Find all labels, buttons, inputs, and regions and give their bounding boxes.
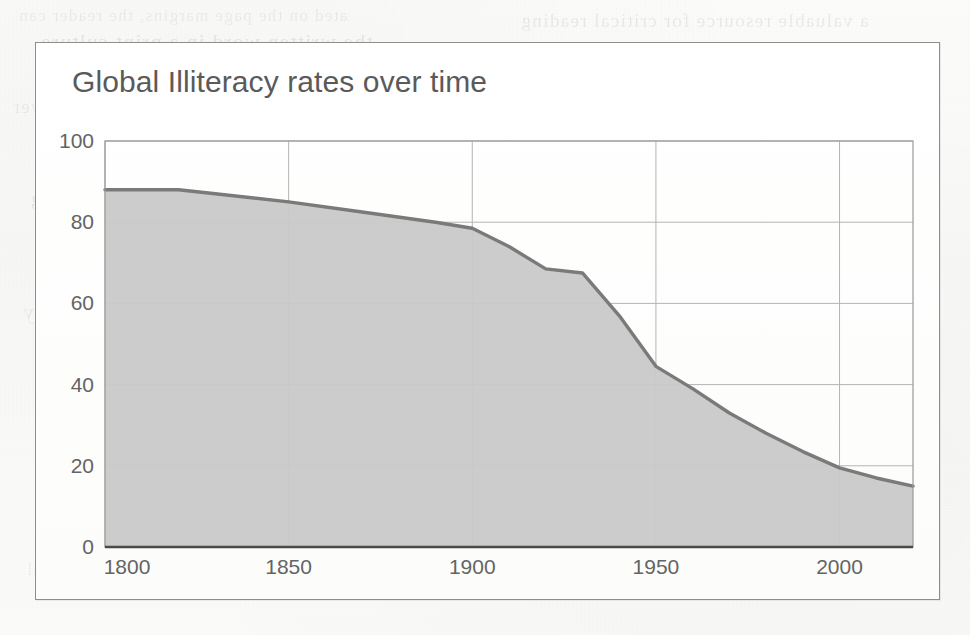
y-axis-tick-labels: 020406080100 [59, 129, 94, 558]
x-axis-tick-label: 1800 [104, 555, 151, 578]
y-axis-tick-label: 40 [71, 373, 94, 396]
plot-area-wrapper: 020406080100 18001850190019502000 [36, 43, 941, 601]
ghost-text-line: ated on the page margins, the reader can [18, 6, 347, 26]
x-axis-tick-label: 1900 [449, 555, 496, 578]
series-area-fill [105, 190, 913, 547]
area-fill-polygon [105, 190, 913, 547]
ghost-text-line: a valuable resource for critical reading [520, 10, 869, 32]
x-axis-tick-labels: 18001850190019502000 [104, 555, 863, 578]
x-axis-tick-label: 1950 [633, 555, 680, 578]
y-axis-tick-label: 0 [82, 535, 94, 558]
y-axis-tick-label: 80 [71, 210, 94, 233]
y-axis-tick-label: 60 [71, 291, 94, 314]
y-axis-tick-label: 100 [59, 129, 94, 152]
x-axis-tick-label: 2000 [816, 555, 863, 578]
area-chart-svg: 020406080100 18001850190019502000 [36, 43, 941, 601]
y-axis-tick-label: 20 [71, 454, 94, 477]
x-axis-tick-label: 1850 [265, 555, 312, 578]
chart-card: Global Illiteracy rates over time 020406… [35, 42, 940, 600]
